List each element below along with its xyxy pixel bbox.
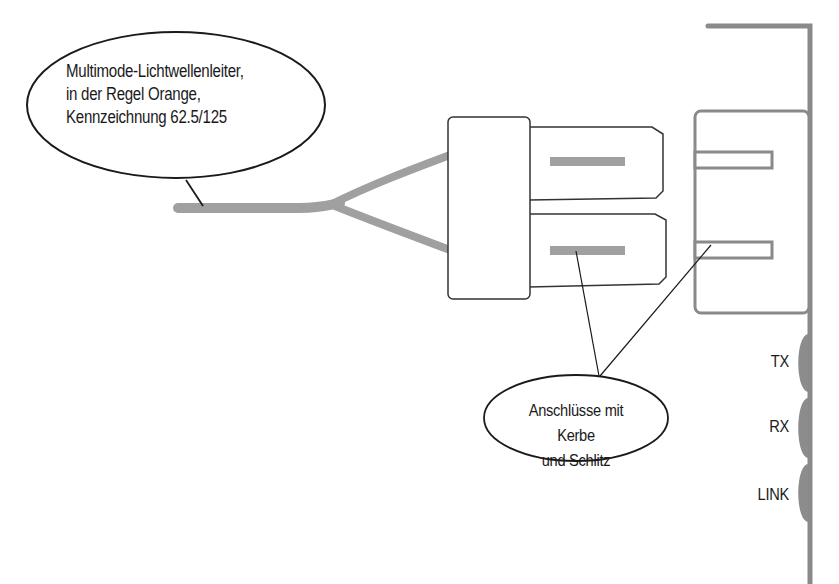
led-label-link: LINK	[737, 485, 789, 505]
card-port-housing	[695, 111, 809, 313]
led-label-rx: RX	[737, 417, 789, 437]
connector-key-bottom	[550, 246, 625, 255]
connectors-callout-text: Anschlüsse mit Kerbe und Schlitz	[516, 398, 636, 473]
fiber-cable-callout-text: Multimode-Lichtwellenleiter, in der Rege…	[66, 60, 290, 129]
led-tx	[798, 334, 808, 392]
connector-housing	[448, 117, 530, 299]
led-rx	[798, 398, 808, 458]
callout-line: Anschlüsse mit Kerbe	[516, 398, 636, 448]
led-label-tx: TX	[737, 352, 789, 372]
led-indicators	[798, 334, 808, 522]
port-slot-top	[695, 152, 772, 168]
connector-key-top	[550, 157, 625, 166]
callout-line: und Schlitz	[516, 448, 636, 473]
callout-line: Kennzeichnung 62.5/125	[66, 106, 290, 129]
callout-line: Multimode-Lichtwellenleiter,	[66, 60, 290, 83]
callout-line: in der Regel Orange,	[66, 83, 290, 106]
led-link	[798, 464, 808, 522]
sc-connector	[448, 117, 666, 299]
